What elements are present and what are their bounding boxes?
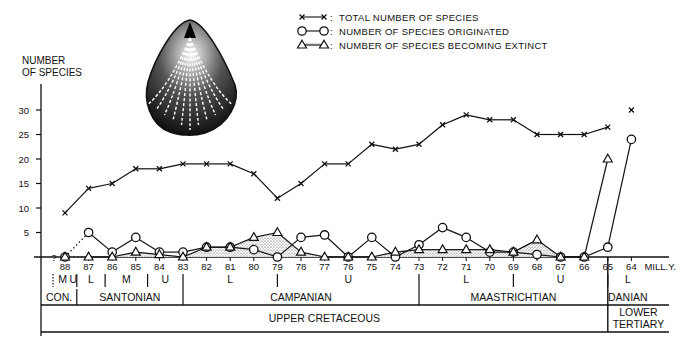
data-point-x — [299, 181, 304, 186]
y-tick-label: 30 — [18, 105, 29, 116]
y-axis-label-line1: NUMBER — [22, 55, 65, 66]
series-segment — [584, 159, 608, 257]
x-tick-label: 84 — [154, 261, 165, 272]
x-tick-label: 79 — [272, 261, 283, 272]
zero-question-label: ? — [51, 252, 56, 263]
x-tick-label: 67 — [555, 261, 566, 272]
stage-label: CON. — [46, 291, 72, 303]
x-tick-label: 73 — [414, 261, 425, 272]
substage-label: L — [463, 273, 469, 285]
y-ticks: 51015202530? — [18, 105, 56, 263]
data-point-triangle — [131, 247, 140, 255]
legend-item: :NUMBER OF SPECIES BECOMING EXTINCT — [298, 40, 548, 51]
series-segment — [348, 144, 372, 164]
y-tick-label: 5 — [24, 227, 29, 238]
x-tick-label: 75 — [367, 261, 378, 272]
x-tick-label: 78 — [296, 261, 307, 272]
stage-label: CAMPANIAN — [270, 291, 332, 303]
substage-label: U — [557, 273, 565, 285]
x-tick-label: 64 — [626, 261, 637, 272]
y-tick-label: 10 — [18, 203, 29, 214]
legend: :TOTAL NUMBER OF SPECIES:NUMBER OF SPECI… — [298, 12, 548, 51]
series-segment — [466, 115, 490, 120]
data-point-o — [132, 233, 140, 241]
x-tick-label: 80 — [249, 261, 260, 272]
x-tick-label: 87 — [83, 261, 94, 272]
species-chart: NUMBER OF SPECIES :TOTAL NUMBER OF SPECI… — [0, 0, 687, 350]
data-point-triangle — [462, 245, 471, 253]
x-tick-label: 71 — [461, 261, 472, 272]
x-tick-label: 69 — [508, 261, 519, 272]
data-point-o — [627, 135, 635, 143]
data-point-triangle — [603, 154, 612, 162]
data-point-triangle — [438, 245, 447, 253]
legend-colon: : — [330, 40, 333, 51]
legend-label: TOTAL NUMBER OF SPECIES — [339, 12, 479, 23]
data-point-x — [629, 108, 634, 113]
x-tick-label: 76 — [343, 261, 354, 272]
series-x — [63, 108, 634, 216]
series-triangle — [61, 154, 613, 260]
substage-label: U — [162, 273, 170, 285]
data-point-o — [604, 243, 612, 251]
series-segment — [584, 127, 608, 134]
series-segment — [513, 120, 537, 135]
data-point-o — [84, 228, 92, 236]
circle-marker — [298, 27, 306, 35]
x-tick-label: 74 — [390, 261, 401, 272]
series-segment — [395, 144, 419, 149]
data-point-triangle — [84, 252, 93, 260]
substage-label: M — [122, 273, 131, 285]
x-unit-label: MILL.Y. — [644, 261, 676, 272]
x-tick-label: 66 — [579, 261, 590, 272]
series-segment — [277, 184, 301, 199]
data-point-x — [440, 122, 445, 127]
data-point-o — [273, 253, 281, 261]
series-segment — [65, 233, 89, 258]
data-point-x — [251, 171, 256, 176]
data-point-x — [63, 210, 68, 215]
x-tick-label: 72 — [437, 261, 448, 272]
series-label-line2: TERTIARY — [613, 318, 665, 330]
stage-label: SANTONIAN — [99, 291, 160, 303]
substage-label: L — [88, 273, 94, 285]
stage-label: DANIAN — [608, 291, 648, 303]
substage-label: L — [227, 273, 233, 285]
series-segment — [65, 188, 89, 213]
legend-item: :TOTAL NUMBER OF SPECIES — [300, 12, 479, 23]
substage-label: U — [344, 273, 352, 285]
y-tick-label: 25 — [18, 129, 29, 140]
series-segment — [112, 169, 136, 184]
series-segment — [443, 115, 467, 125]
series-segment — [608, 139, 632, 247]
data-point-o — [368, 233, 376, 241]
data-point-x — [275, 196, 280, 201]
data-point-o — [320, 231, 328, 239]
stage-label: MAASTRICHTIAN — [471, 291, 557, 303]
series-segment — [89, 184, 113, 189]
series-label-line1: LOWER — [619, 306, 658, 318]
series-segment — [419, 125, 443, 145]
series-label: UPPER CRETACEOUS — [269, 312, 380, 324]
legend-colon: : — [330, 12, 333, 23]
x-tick-label: 70 — [485, 261, 496, 272]
x-tick-label: 85 — [131, 261, 142, 272]
x-tick-label: 82 — [201, 261, 212, 272]
data-point-o — [250, 245, 258, 253]
substage-label: L — [625, 273, 631, 285]
series-layer — [61, 108, 636, 262]
legend-colon: : — [330, 26, 333, 37]
series-o — [61, 135, 636, 261]
series-segment — [159, 164, 183, 169]
substage-label: U — [69, 273, 77, 285]
x-tick-label: 81 — [225, 261, 236, 272]
data-point-triangle — [273, 228, 282, 236]
legend-label: NUMBER OF SPECIES BECOMING EXTINCT — [339, 40, 548, 51]
series-segment — [372, 144, 396, 149]
circle-marker — [320, 27, 328, 35]
substage-label: M — [58, 273, 67, 285]
x-tick-label: 68 — [532, 261, 543, 272]
x-tick-label: 83 — [178, 261, 189, 272]
legend-label: NUMBER OF SPECIES ORIGINATED — [339, 26, 509, 37]
x-tick-label: 88 — [60, 261, 71, 272]
